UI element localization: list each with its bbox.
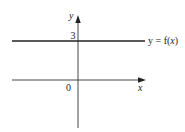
graph-of-constant-function: y 3 0 x y = f(x) [0,0,185,132]
y-axis-arrow-icon [75,15,80,23]
x-axis-label: x [137,82,143,93]
function-label-rhs: ) [175,35,178,47]
y-tick-label: 3 [71,30,76,41]
function-label: y = f(x) [148,35,178,47]
function-label-lhs: y = f( [148,35,171,47]
y-axis-label: y [68,10,74,21]
origin-label: 0 [66,82,71,93]
